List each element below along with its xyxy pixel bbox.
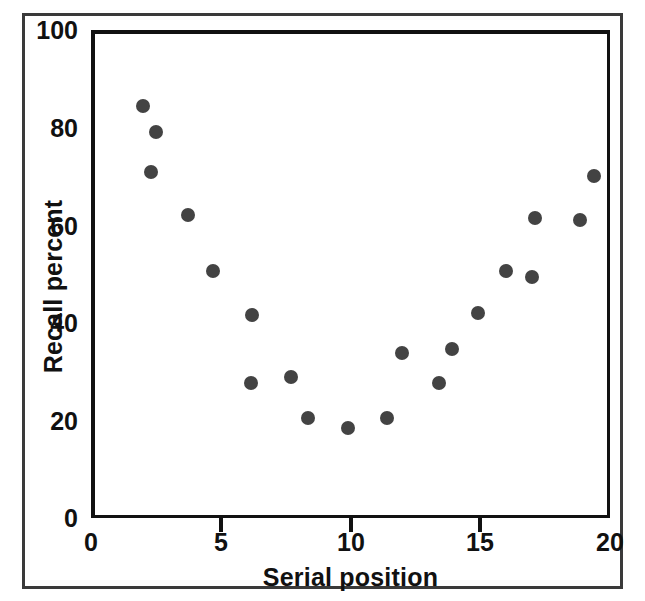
y-tick-label-80: 80 [18, 116, 78, 141]
figure-container: 100 80 60 40 20 0 0 5 10 15 20 Recall pe… [0, 0, 645, 601]
x-tick-label-10: 10 [316, 530, 386, 555]
y-tick-label-20: 20 [18, 409, 78, 434]
x-tick-label-0: 0 [56, 530, 126, 555]
plot-area-frame [91, 30, 610, 518]
y-tick-label-0: 0 [18, 506, 78, 531]
y-tick-label-100: 100 [18, 18, 78, 43]
x-axis-title: Serial position [91, 563, 610, 592]
x-tick-label-15: 15 [445, 530, 515, 555]
x-tick-label-20: 20 [575, 530, 645, 555]
x-tick-label-5: 5 [186, 530, 256, 555]
y-axis-title: Recall percent [39, 172, 68, 402]
